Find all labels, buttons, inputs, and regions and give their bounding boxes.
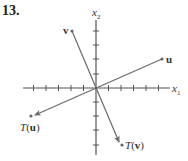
point-u [160,57,163,60]
x1-axis-label: x1 [171,82,181,97]
label-u: u [166,53,172,65]
label-Tv: T(v) [125,139,144,152]
vector-diagram: x1 x2 v u T(u) T(v) [0,0,188,161]
u-to-Tu-line [35,59,162,115]
point-Tv [120,143,123,146]
x2-axis-label: x2 [91,6,101,21]
point-v [70,29,73,32]
label-Tu: T(u) [20,121,40,134]
label-v: v [63,24,69,36]
point-Tu [29,114,32,117]
